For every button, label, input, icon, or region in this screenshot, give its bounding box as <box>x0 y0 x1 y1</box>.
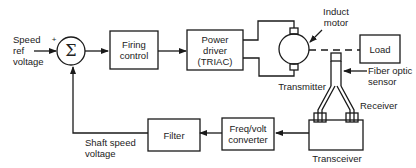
power-line3: (TRIAC) <box>198 56 233 67</box>
fv-line2: converter <box>228 134 268 145</box>
freq-volt-label: Freq/volt converter <box>222 118 274 150</box>
filter-label: Filter <box>148 119 200 151</box>
fiber-line2: sensor <box>368 76 416 87</box>
power-driver-label: Power driver (TRIAC) <box>187 30 243 70</box>
speed-ref-line2: ref <box>13 45 53 56</box>
firing-line1: Firing <box>122 39 146 50</box>
speed-ref-line1: Speed <box>13 34 53 45</box>
induct-motor-label: Induct motor <box>316 6 356 28</box>
fiber-line1: Fiber optic <box>368 65 416 76</box>
induct-line1: Induct <box>316 6 356 17</box>
power-line1: Power <box>202 34 229 45</box>
motor-brush-bottom <box>290 64 298 70</box>
power-line2: driver <box>203 45 227 56</box>
shaft-speed-label: Shaft speed voltage <box>85 137 145 159</box>
plus-sign: + <box>50 34 58 45</box>
motor-wire-bottom <box>243 58 294 76</box>
receiver-label: Receiver <box>360 100 410 111</box>
motor-wire-top <box>243 21 294 40</box>
firing-line2: control <box>120 50 149 61</box>
motor-brush-top <box>290 28 298 34</box>
transceiver-label: Transceiver <box>306 153 368 164</box>
sensor-head <box>331 53 341 61</box>
feedback-line <box>73 67 148 133</box>
transceiver-box <box>309 120 363 150</box>
motor-circle <box>279 34 309 64</box>
induct-line2: motor <box>316 17 356 28</box>
shaft-line2: voltage <box>85 148 145 159</box>
sigma-symbol: Σ <box>61 41 81 61</box>
transmitter-label: Transmitter <box>272 81 332 92</box>
speed-ref-label: Speed ref voltage <box>13 34 53 67</box>
load-label: Load <box>360 35 400 63</box>
fv-line1: Freq/volt <box>230 123 267 134</box>
motor-pointer <box>310 30 322 42</box>
connector-left <box>314 113 326 122</box>
fiber-optic-label: Fiber optic sensor <box>368 65 416 87</box>
speed-ref-line3: voltage <box>13 56 53 67</box>
firing-control-label: Firing control <box>110 31 158 69</box>
shaft-line1: Shaft speed <box>85 137 145 148</box>
connector-right <box>346 113 358 122</box>
